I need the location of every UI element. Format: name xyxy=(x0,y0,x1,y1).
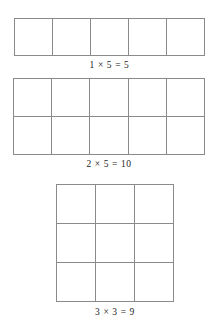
grid-cell xyxy=(129,117,167,155)
grid-cell xyxy=(91,19,129,56)
grid-cell xyxy=(57,263,96,302)
grid-cell xyxy=(96,224,135,263)
grid-cell xyxy=(135,224,174,263)
array-grid-2x5 xyxy=(13,78,205,155)
multiplication-arrays-figure: { "page": { "background_color": "#ffffff… xyxy=(0,0,216,333)
array-caption-2x5: 2 × 5 = 10 xyxy=(13,158,205,171)
grid-cell xyxy=(14,79,52,117)
array-figure-1x5: 1 × 5 = 5 xyxy=(14,18,205,72)
array-grid-1x5 xyxy=(14,18,205,56)
grid-cell xyxy=(135,185,174,224)
array-figure-3x3: 3 × 3 = 9 xyxy=(56,184,174,319)
grid-cell xyxy=(52,117,90,155)
grid-cell xyxy=(90,79,128,117)
grid-cell xyxy=(167,79,205,117)
grid-cell xyxy=(129,19,167,56)
grid-cell xyxy=(53,19,91,56)
grid-cell xyxy=(167,19,205,56)
grid-cell xyxy=(90,117,128,155)
grid-cell xyxy=(15,19,53,56)
grid-cell xyxy=(129,79,167,117)
grid-cell xyxy=(135,263,174,302)
array-figure-2x5: 2 × 5 = 10 xyxy=(13,78,205,171)
grid-cell xyxy=(96,263,135,302)
array-grid-3x3 xyxy=(56,184,174,302)
grid-cell xyxy=(57,185,96,224)
grid-cell xyxy=(57,224,96,263)
grid-cell xyxy=(96,185,135,224)
array-caption-1x5: 1 × 5 = 5 xyxy=(14,59,205,72)
grid-cell xyxy=(14,117,52,155)
grid-cell xyxy=(52,79,90,117)
array-caption-3x3: 3 × 3 = 9 xyxy=(56,306,174,319)
grid-cell xyxy=(167,117,205,155)
